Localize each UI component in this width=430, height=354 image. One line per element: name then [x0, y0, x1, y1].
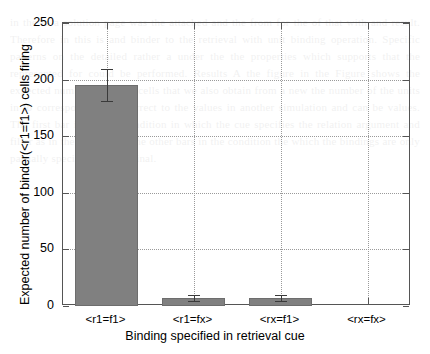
y-tick-right-200 — [403, 80, 409, 81]
error-cap-0-lower — [101, 101, 113, 102]
error-bar-0 — [107, 69, 108, 101]
y-axis-label: Expected number of binder(<r1=f1>) cells… — [18, 44, 32, 305]
x-axis-label: Binding specified in retrieval cue — [0, 329, 430, 343]
y-tick-right-0 — [403, 306, 409, 307]
y-tick-label-50: 50 — [40, 241, 54, 255]
gridline-x-2 — [281, 23, 282, 304]
y-tick-right-100 — [403, 193, 409, 194]
y-tick-right-250 — [403, 23, 409, 24]
y-tick-150 — [63, 136, 69, 137]
y-tick-label-100: 100 — [33, 185, 54, 199]
bar-chart-figure: Expected number of binder(<r1=f1>) cells… — [0, 0, 430, 354]
x-tick-label-1: <r1=fx> — [173, 313, 212, 325]
error-cap-2-lower — [275, 301, 287, 302]
y-tick-100 — [63, 193, 69, 194]
y-tick-label-200: 200 — [33, 72, 54, 86]
plot-area — [62, 22, 410, 305]
error-bar-1 — [194, 295, 195, 302]
x-tick-label-2: <rx=f1> — [260, 313, 299, 325]
y-tick-label-0: 0 — [47, 298, 54, 312]
x-tick-label-3: <rx=fx> — [347, 313, 386, 325]
x-tick-top-1 — [194, 23, 195, 29]
y-tick-right-50 — [403, 249, 409, 250]
y-tick-200 — [63, 80, 69, 81]
y-tick-0 — [63, 306, 69, 307]
x-tick-label-0: <r1=f1> — [86, 313, 126, 325]
y-tick-250 — [63, 23, 69, 24]
y-tick-right-150 — [403, 136, 409, 137]
y-tick-label-250: 250 — [33, 15, 54, 29]
y-tick-label-150: 150 — [33, 128, 54, 142]
y-tick-50 — [63, 249, 69, 250]
gridline-x-1 — [194, 23, 195, 304]
gridline-x-3 — [368, 23, 369, 304]
bar-0 — [75, 85, 138, 306]
x-tick-top-3 — [368, 23, 369, 29]
error-cap-1-lower — [188, 301, 200, 302]
gridline-y-200 — [63, 80, 409, 81]
x-tick-top-0 — [107, 23, 108, 29]
error-bar-2 — [281, 295, 282, 302]
error-cap-2-upper — [275, 295, 287, 296]
error-cap-1-upper — [188, 295, 200, 296]
x-tick-top-2 — [281, 23, 282, 29]
x-tick-3 — [368, 298, 369, 304]
error-cap-0-upper — [101, 69, 113, 70]
